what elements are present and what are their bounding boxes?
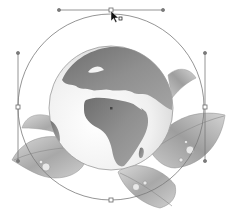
left-handle-bottom[interactable] [16, 159, 19, 162]
anchor-bottom[interactable] [109, 198, 113, 202]
artwork-svg [0, 0, 235, 216]
center-point-icon [110, 107, 113, 110]
right-handle-top[interactable] [203, 51, 206, 54]
leaf-right-upper [168, 69, 196, 98]
left-handle-top[interactable] [16, 51, 19, 54]
direct-selection-cursor-icon [111, 11, 122, 23]
anchor-left[interactable] [16, 105, 20, 109]
anchor-right[interactable] [203, 105, 207, 109]
leaf-bottom [118, 166, 176, 208]
artboard[interactable] [0, 0, 235, 216]
top-handle-left[interactable] [57, 8, 60, 11]
right-handle-bottom[interactable] [203, 159, 206, 162]
top-handle-right[interactable] [161, 8, 164, 11]
